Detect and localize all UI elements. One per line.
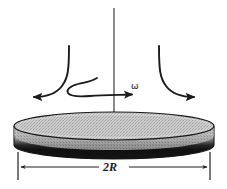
disk-top-face: [14, 112, 214, 140]
figure-container: ω 2R: [0, 0, 227, 189]
disk-body: [11, 112, 217, 159]
diameter-label: 2R: [103, 160, 117, 175]
angular-velocity-label: ω: [131, 81, 139, 91]
